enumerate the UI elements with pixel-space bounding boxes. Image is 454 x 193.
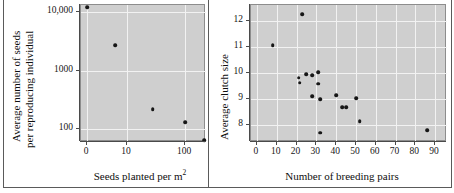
x-axis-title-right: Number of breeding pairs <box>285 170 398 182</box>
data-point-right <box>358 119 362 123</box>
panel-right-clutch: Average clutch size Number of breeding p… <box>209 0 451 188</box>
gridline-horizontal-right <box>251 99 447 100</box>
x-axis-tick-label-left: 100 <box>177 147 191 157</box>
y-axis-line-right <box>249 4 250 141</box>
gridline-horizontal-left <box>81 71 206 72</box>
x-axis-tick-label-right: 30 <box>311 147 321 157</box>
gridline-vertical-right <box>435 5 436 142</box>
x-axis-tick-right <box>395 142 396 145</box>
data-point-right <box>318 131 322 135</box>
panel-left-seeds: Average number of seeds per reproducing … <box>4 0 208 188</box>
x-axis-tick-right <box>276 142 277 145</box>
data-point-right <box>317 71 321 75</box>
gridline-vertical-right <box>356 5 357 142</box>
data-point-right <box>305 72 309 76</box>
data-point-right <box>334 93 338 97</box>
x-axis-tick-right <box>355 142 356 145</box>
y-axis-tick-label-left: 10,000 <box>22 6 73 16</box>
data-point-right <box>301 12 305 16</box>
data-point-left <box>183 121 187 125</box>
data-point-left <box>113 43 117 47</box>
x-axis-title-left-text: Seeds planted per m <box>94 170 183 182</box>
data-point-right <box>297 76 301 80</box>
x-axis-tick-right <box>414 142 415 145</box>
x-axis-tick-right <box>375 142 376 145</box>
y-axis-tick-label-right: 8 <box>223 119 243 129</box>
figure-container: Average number of seeds per reproducing … <box>0 0 454 193</box>
plot-area-right <box>250 4 446 141</box>
x-axis-line-right <box>250 141 446 142</box>
x-axis-tick-right <box>315 142 316 145</box>
y-axis-tick-left <box>76 70 79 71</box>
x-axis-tick-right <box>434 142 435 145</box>
x-axis-title-left-superscript: 2 <box>183 168 187 177</box>
y-axis-tick-left <box>76 128 79 129</box>
y-axis-tick-label-left: 100 <box>22 123 73 133</box>
data-point-right <box>311 74 315 78</box>
y-axis-tick-right <box>246 98 249 99</box>
x-axis-tick-label-right: 20 <box>291 147 301 157</box>
x-axis-tick-label-right: 10 <box>271 147 281 157</box>
x-axis-tick-label-right: 40 <box>330 147 340 157</box>
y-axis-tick-label-right: 12 <box>223 15 243 25</box>
y-axis-tick-left <box>76 11 79 12</box>
gridline-vertical-right <box>396 5 397 142</box>
x-axis-tick-right <box>335 142 336 145</box>
gridline-vertical-right <box>415 5 416 142</box>
y-axis-tick-right <box>246 72 249 73</box>
gridline-horizontal-left <box>81 129 206 130</box>
gridline-vertical-right <box>277 5 278 142</box>
gridline-vertical-left <box>87 5 88 142</box>
x-axis-tick-label-right: 90 <box>429 147 439 157</box>
data-point-right <box>354 97 358 101</box>
gridline-vertical-right <box>376 5 377 142</box>
data-point-right <box>318 98 322 102</box>
y-axis-tick-right <box>246 20 249 21</box>
x-axis-line-left <box>80 141 205 142</box>
y-axis-tick-label-right: 11 <box>223 41 243 51</box>
data-point-left <box>151 107 155 111</box>
data-point-right <box>344 105 348 109</box>
x-axis-tick-label-right: 60 <box>370 147 380 157</box>
x-axis-tick-label-right: 80 <box>410 147 420 157</box>
data-point-right <box>425 128 429 132</box>
data-point-right <box>271 44 275 48</box>
gridline-horizontal-left <box>81 12 206 13</box>
x-axis-tick-label-left: 10 <box>121 147 131 157</box>
gridline-horizontal-right <box>251 21 447 22</box>
y-axis-tick-label-right: 9 <box>223 93 243 103</box>
x-axis-tick-label-right: 50 <box>350 147 360 157</box>
gridline-vertical-left <box>127 5 128 142</box>
x-axis-tick-label-left: 0 <box>84 147 89 157</box>
y-axis-tick-right <box>246 124 249 125</box>
gridline-vertical-right <box>336 5 337 142</box>
gridline-horizontal-right <box>251 125 447 126</box>
data-point-left <box>85 6 89 10</box>
data-point-right <box>311 95 315 99</box>
x-axis-title-left: Seeds planted per m2 <box>94 170 187 182</box>
gridline-horizontal-right <box>251 73 447 74</box>
x-axis-tick-label-right: 0 <box>254 147 259 157</box>
data-point-right <box>298 81 302 85</box>
x-axis-tick-right <box>256 142 257 145</box>
gridline-horizontal-right <box>251 47 447 48</box>
plot-area-left <box>80 4 205 141</box>
gridline-vertical-right <box>297 5 298 142</box>
figure-right-rule <box>451 0 452 188</box>
data-point-right <box>317 82 321 86</box>
y-axis-tick-label-right: 10 <box>223 67 243 77</box>
x-axis-tick-left <box>126 142 127 145</box>
x-axis-tick-left <box>184 142 185 145</box>
x-axis-tick-label-right: 70 <box>390 147 400 157</box>
y-axis-tick-label-left: 1000 <box>22 65 73 75</box>
x-axis-tick-right <box>296 142 297 145</box>
gridline-vertical-right <box>257 5 258 142</box>
x-axis-tick-left <box>86 142 87 145</box>
y-axis-tick-right <box>246 46 249 47</box>
y-axis-title-left-line1: Average number of seeds <box>10 31 23 142</box>
y-axis-line-left <box>79 4 80 141</box>
